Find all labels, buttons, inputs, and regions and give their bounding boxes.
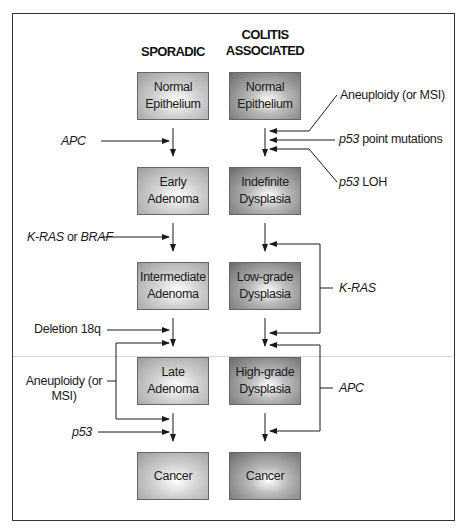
label-p53-point-mutations: p53 point mutations (339, 132, 442, 147)
label-p53-loh: p53 LOH (339, 175, 387, 190)
label-apc-colitis: APC (339, 381, 364, 396)
label-aneuploidy-colitis: Aneuploidy (or MSI) (340, 88, 445, 103)
label-aneuploidy-sporadic: Aneuploidy (or MSI) (24, 374, 104, 404)
label-kras-colitis: K-RAS (339, 281, 376, 296)
connector-arrows (0, 0, 467, 531)
label-kras-or-braf: K-RAS or BRAF (27, 230, 113, 245)
label-deletion-18q: Deletion 18q (34, 322, 101, 337)
label-p53-sporadic: p53 (72, 425, 92, 440)
label-apc-sporadic: APC (61, 134, 86, 149)
